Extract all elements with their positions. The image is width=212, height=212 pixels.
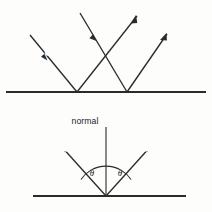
reflection-diagram-figure: incident reflected normal inciden bbox=[0, 0, 212, 212]
diagram-canvas: incident reflected normal inciden bbox=[0, 0, 212, 212]
top-reflected-label: reflected bbox=[114, 46, 148, 56]
reflected-ray-2 bbox=[127, 33, 167, 92]
theta-reflection-label: θ bbox=[118, 168, 123, 178]
parallel-beam-panel: incident reflected bbox=[6, 13, 206, 92]
normal-label: normal bbox=[72, 116, 99, 126]
theta-incidence-label: θ bbox=[90, 168, 95, 178]
bottom-incident-label: incident bbox=[41, 142, 72, 152]
top-incident-label: incident bbox=[46, 46, 77, 56]
reflected-ray-2-arrowhead bbox=[160, 33, 167, 41]
bottom-reflected-label: reflected bbox=[124, 142, 158, 152]
single-ray-angle-panel: normal incident reflected θ θ bbox=[33, 116, 186, 196]
incident-ray-1 bbox=[30, 35, 77, 92]
bottom-reflected-ray bbox=[106, 145, 153, 197]
bottom-incident-ray bbox=[60, 145, 107, 197]
